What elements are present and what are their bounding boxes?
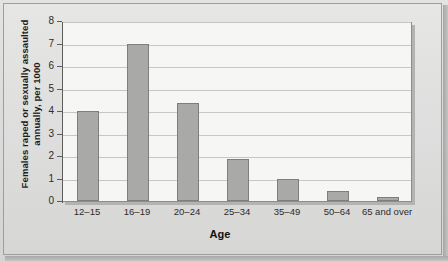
x-axis-tick-label: 50–64 bbox=[311, 206, 363, 218]
y-axis-tick-mark bbox=[57, 134, 62, 135]
y-axis-tick-mark bbox=[57, 66, 62, 67]
y-axis-tick-mark bbox=[57, 21, 62, 22]
y-axis-title-line-0: Females raped or sexually assaulted bbox=[19, 9, 31, 199]
gridline bbox=[63, 67, 411, 68]
gridline bbox=[63, 157, 411, 158]
y-axis-title: Females raped or sexually assaultedannua… bbox=[19, 9, 43, 199]
y-axis-tick-mark bbox=[57, 111, 62, 112]
y-axis-tick-mark bbox=[57, 179, 62, 180]
y-axis-tick-mark bbox=[57, 201, 62, 202]
x-axis-tick-label: 65 and over bbox=[361, 206, 413, 218]
gridline bbox=[63, 45, 411, 46]
gridline bbox=[63, 22, 411, 23]
gridline bbox=[63, 90, 411, 91]
y-axis-tick-mark bbox=[57, 156, 62, 157]
bar bbox=[377, 197, 399, 202]
x-axis-title: Age bbox=[194, 228, 246, 240]
bar bbox=[177, 103, 199, 201]
gridline bbox=[63, 135, 411, 136]
x-axis-tick-label: 12–15 bbox=[61, 206, 113, 218]
x-axis-tick-label: 25–34 bbox=[211, 206, 263, 218]
y-axis-title-line-1: annually, per 1000 bbox=[31, 9, 43, 199]
y-axis-tick-mark bbox=[57, 89, 62, 90]
bar bbox=[77, 111, 99, 201]
bar bbox=[327, 191, 349, 201]
plot-area bbox=[62, 22, 412, 202]
x-axis-tick-label: 16–19 bbox=[111, 206, 163, 218]
x-axis-tick-label: 20–24 bbox=[161, 206, 213, 218]
bar bbox=[127, 44, 149, 202]
bar bbox=[277, 179, 299, 202]
bar-chart: 012345678 Females raped or sexually assa… bbox=[0, 0, 448, 261]
y-axis-tick-mark bbox=[57, 44, 62, 45]
gridline bbox=[63, 112, 411, 113]
x-axis-tick-label: 35–49 bbox=[261, 206, 313, 218]
figure-page: 012345678 Females raped or sexually assa… bbox=[0, 0, 448, 261]
bar bbox=[227, 159, 249, 201]
y-axis-line bbox=[62, 22, 63, 203]
